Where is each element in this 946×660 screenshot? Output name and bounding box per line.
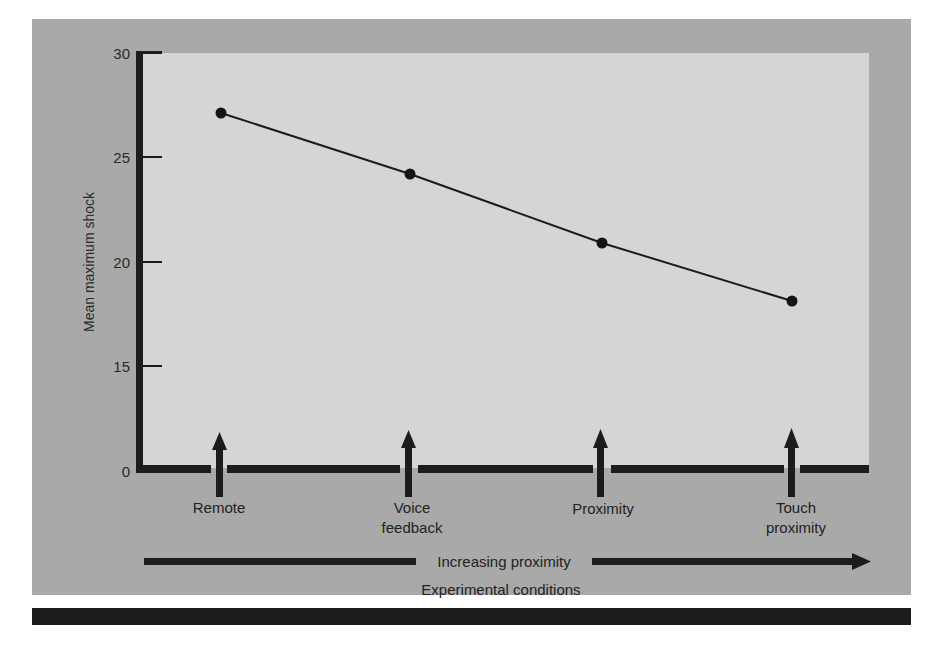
category-label-remote: Remote: [193, 499, 246, 516]
increasing-proximity-label: Increasing proximity: [437, 553, 571, 570]
line-chart: 30 25 20 15 0 Mean maximum shock Remote …: [0, 0, 946, 660]
category-label-proximity: Proximity: [572, 500, 634, 517]
y-axis-title: Mean maximum shock: [81, 191, 97, 332]
y-tick-label: 20: [113, 254, 130, 271]
x-axis-title: Experimental conditions: [421, 581, 580, 598]
data-point-proximity: [597, 238, 608, 249]
x-axis-line: [136, 465, 869, 473]
plot-area: [142, 53, 869, 468]
category-label-touch-proximity: Touch: [776, 499, 816, 516]
category-label-voice-feedback-line2: feedback: [382, 519, 443, 536]
y-tick-label: 15: [113, 358, 130, 375]
y-tick-label: 25: [113, 149, 130, 166]
y-tick-30: [136, 51, 162, 54]
category-label-voice-feedback: Voice: [394, 499, 431, 516]
y-tick-label: 30: [113, 45, 130, 62]
data-point-remote: [216, 108, 227, 119]
y-axis-line: [136, 51, 143, 473]
data-point-voice-feedback: [405, 169, 416, 180]
category-label-touch-proximity-line2: proximity: [766, 519, 827, 536]
y-tick-label: 0: [122, 463, 130, 480]
data-point-touch-proximity: [787, 296, 798, 307]
